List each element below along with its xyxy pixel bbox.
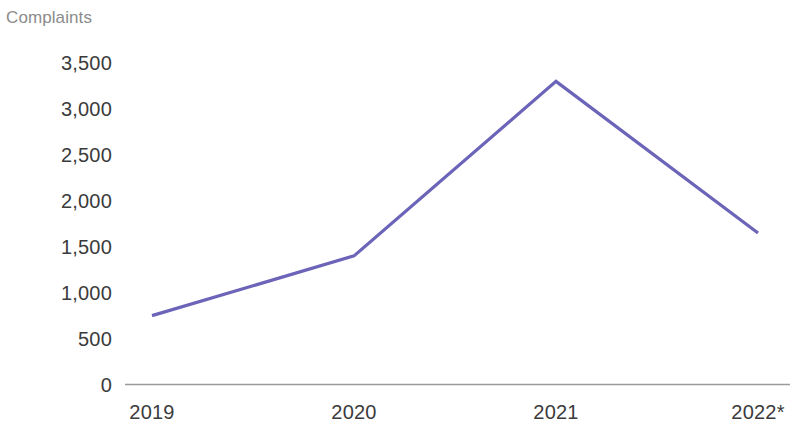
x-axis: 2019202020212022*: [0, 400, 796, 428]
series-line-complaints: [152, 81, 758, 315]
x-axis-tick-label: 2021: [533, 400, 578, 424]
x-axis-tick-label: 2019: [129, 400, 174, 424]
x-axis-tick-label: 2022*: [731, 400, 784, 424]
x-axis-tick-label: 2020: [331, 400, 376, 424]
plot-area: [0, 0, 796, 428]
chart-canvas: [0, 0, 796, 428]
complaints-line-chart: Complaints 3,5003,0002,5002,0001,5001,00…: [0, 0, 796, 428]
